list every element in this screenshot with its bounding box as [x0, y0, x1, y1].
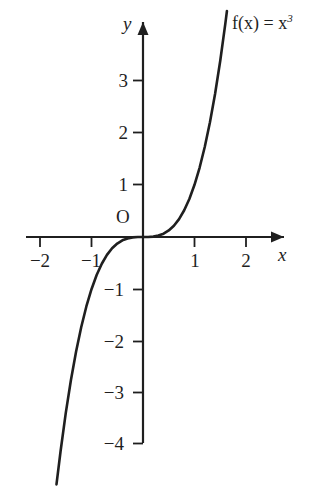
cubic-curve [56, 11, 226, 484]
y-tick-label-1: 1 [92, 175, 128, 194]
x-tick-label--1: −1 [73, 251, 109, 270]
function-label-text: f(x) = x [232, 13, 287, 33]
y-tick-label-2: 2 [92, 123, 128, 142]
y-tick-label--4: −4 [88, 434, 124, 453]
x-tick-label-1: 1 [177, 251, 213, 270]
y-axis-ticks [133, 81, 143, 444]
y-tick-label--2: −2 [88, 332, 124, 351]
y-axis-label: y [123, 14, 131, 33]
function-label: f(x) = x3 [232, 14, 293, 32]
function-label-exponent: 3 [287, 12, 293, 24]
y-tick-label--1: −1 [88, 280, 124, 299]
x-tick-label--2: −2 [22, 251, 58, 270]
chart-figure: −2 −1 1 2 3 2 1 −1 −2 −3 −4 O x y f(x) =… [0, 0, 311, 490]
plot-canvas [0, 0, 311, 490]
y-axis-arrowhead [138, 22, 149, 35]
x-tick-label-2: 2 [228, 251, 264, 270]
origin-label: O [116, 207, 130, 226]
axes-group [26, 22, 284, 443]
y-tick-label-3: 3 [92, 71, 128, 90]
x-axis-arrowhead [271, 232, 284, 243]
x-axis-label: x [278, 245, 286, 264]
y-tick-label--3: −3 [88, 383, 124, 402]
